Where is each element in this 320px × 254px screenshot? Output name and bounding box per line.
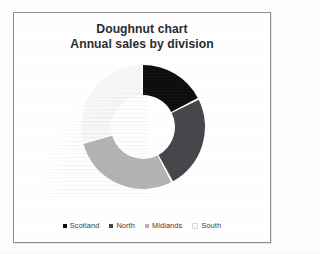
legend-label-scotland: Scotland — [70, 221, 100, 230]
legend-swatch-scotland — [63, 224, 67, 228]
doughnut-chart-area — [14, 49, 272, 207]
legend-item-midlands[interactable]: Midlands — [145, 221, 182, 230]
legend-swatch-south — [192, 223, 198, 229]
chart-legend: Scotland North Midlands South — [14, 221, 270, 230]
scanned-page-background: Doughnut chart Annual sales by division … — [0, 0, 287, 254]
legend-swatch-north — [109, 224, 113, 228]
chart-title-line-1: Doughnut chart — [96, 22, 187, 36]
doughnut-slice-midlands[interactable] — [83, 136, 171, 189]
legend-item-north[interactable]: North — [109, 221, 135, 230]
legend-label-midlands: Midlands — [152, 221, 182, 230]
chart-frame: Doughnut chart Annual sales by division … — [13, 12, 271, 243]
legend-label-north: North — [116, 221, 135, 230]
legend-swatch-midlands — [145, 224, 149, 228]
legend-item-scotland[interactable]: Scotland — [63, 221, 100, 230]
legend-label-south: South — [201, 221, 221, 230]
doughnut-slice-north[interactable] — [159, 100, 205, 181]
legend-item-south[interactable]: South — [192, 221, 221, 230]
chart-title: Doughnut chart Annual sales by division — [14, 22, 270, 52]
doughnut-slice-south[interactable] — [81, 65, 142, 142]
doughnut-chart — [63, 49, 223, 207]
